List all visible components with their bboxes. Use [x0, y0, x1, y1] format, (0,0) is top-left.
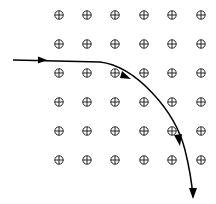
field-into-page-icon — [197, 98, 205, 106]
field-into-page-icon — [111, 11, 119, 19]
diagram-canvas — [0, 0, 216, 204]
field-into-page-icon — [111, 127, 119, 135]
field-into-page-icon — [83, 156, 91, 164]
field-into-page-icon — [168, 156, 176, 164]
field-into-page-icon — [111, 40, 119, 48]
field-into-page-icon — [140, 40, 148, 48]
field-into-page-icon — [83, 98, 91, 106]
field-into-page-icon — [197, 69, 205, 77]
field-into-page-icon — [83, 40, 91, 48]
field-into-page-icon — [197, 11, 205, 19]
field-into-page-icon — [140, 127, 148, 135]
field-into-page-icon — [197, 156, 205, 164]
field-into-page-icon — [168, 40, 176, 48]
arrowhead-icon — [120, 71, 131, 79]
arrowhead-icon — [174, 134, 182, 146]
field-into-page-icon — [55, 40, 63, 48]
field-into-page-icon — [55, 156, 63, 164]
field-into-page-icon — [111, 98, 119, 106]
field-into-page-icon — [111, 69, 119, 77]
field-into-page-icon — [140, 98, 148, 106]
field-into-page-icon — [140, 156, 148, 164]
field-into-page-icon — [140, 69, 148, 77]
field-into-page-icon — [83, 127, 91, 135]
field-into-page-icon — [55, 98, 63, 106]
field-into-page-icon — [83, 69, 91, 77]
field-into-page-icon — [55, 69, 63, 77]
field-into-page-icon — [55, 127, 63, 135]
field-into-page-icon — [140, 11, 148, 19]
field-into-page-icon — [83, 11, 91, 19]
field-into-page-icon — [168, 69, 176, 77]
arrowhead-icon — [38, 57, 47, 64]
field-into-page-icon — [168, 98, 176, 106]
field-into-page-icon — [111, 156, 119, 164]
arrowhead-icon — [189, 188, 197, 199]
field-into-page-icon — [197, 127, 205, 135]
field-into-page-icon — [168, 127, 176, 135]
field-into-page-icon — [197, 40, 205, 48]
field-into-page-icon — [168, 11, 176, 19]
magnetic-field-diagram — [0, 0, 216, 204]
particle-trajectory — [13, 60, 193, 197]
field-into-page-icon — [55, 11, 63, 19]
